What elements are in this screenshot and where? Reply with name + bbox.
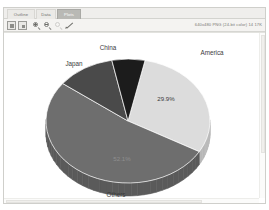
canvas-viewport: AmericaChinaJapanOthers29.9%52.1% — [4, 32, 265, 203]
zoom-reset-button[interactable] — [54, 21, 63, 30]
app-root: Outline Data Plots — [0, 0, 269, 210]
vertical-scrollbar-thumb[interactable] — [261, 35, 265, 153]
magnifier-handle-icon — [37, 27, 40, 30]
pie-label-japan: Japan — [65, 60, 83, 68]
tab-data[interactable]: Data — [36, 9, 56, 19]
zoom-out-button[interactable] — [43, 21, 52, 30]
tab-outline[interactable]: Outline — [7, 9, 35, 19]
zoom-in-button[interactable] — [32, 21, 41, 30]
pie-label-china: China — [100, 44, 117, 51]
magnifier-handle-icon — [59, 27, 62, 30]
plot-canvas: AmericaChinaJapanOthers29.9%52.1% — [4, 33, 259, 198]
horizontal-scrollbar-thumb[interactable] — [6, 200, 202, 203]
actual-size-button[interactable] — [18, 21, 27, 30]
pick-tool-button[interactable] — [65, 21, 75, 30]
tab-plots[interactable]: Plots — [57, 9, 81, 19]
pie-chart: AmericaChinaJapanOthers29.9%52.1% — [4, 33, 259, 198]
image-info-status: 640x480 PNG (24-bit color) 14 17K — [195, 22, 262, 28]
image-viewer-window: Outline Data Plots — [3, 7, 266, 204]
magnifier-handle-icon — [48, 27, 51, 30]
magnifier-icon — [55, 22, 60, 27]
plus-v-icon — [35, 23, 36, 26]
pie-chart-svg: AmericaChinaJapanOthers29.9%52.1% — [4, 33, 255, 198]
pencil-icon — [67, 23, 74, 29]
minus-icon — [45, 24, 48, 25]
vertical-scrollbar[interactable] — [259, 33, 265, 198]
pie-percent-label: 29.9% — [157, 95, 175, 102]
pie-label-america: America — [200, 49, 224, 56]
toolbar: 640x480 PNG (24-bit color) 14 17K — [4, 19, 265, 32]
pie-percent-label: 52.1% — [113, 155, 131, 162]
tab-bar: Outline Data Plots — [4, 8, 265, 19]
fit-page-button[interactable] — [7, 21, 16, 30]
pie-label-others: Others — [107, 191, 126, 198]
horizontal-scrollbar[interactable] — [4, 198, 259, 203]
